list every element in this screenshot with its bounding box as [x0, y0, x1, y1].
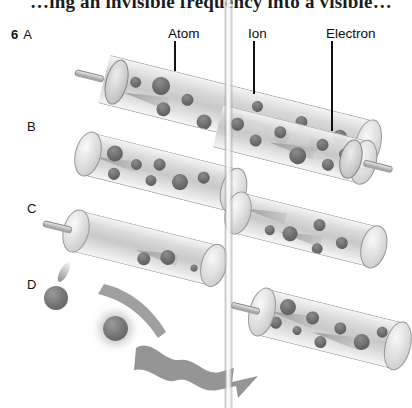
- callout-label-atom: Atom: [168, 27, 200, 41]
- row-a-particle: [155, 101, 172, 118]
- row-c-particle: [281, 225, 299, 243]
- row-d-tube-body: [256, 289, 403, 369]
- row-label-d: D: [27, 278, 36, 291]
- row-letter-c: C: [27, 201, 36, 216]
- row-b-particle: [248, 133, 263, 148]
- row-c-particle: [264, 224, 276, 236]
- figure-number: 6: [11, 27, 18, 42]
- row-d-particle: [292, 325, 303, 336]
- row-b-particle: [152, 157, 167, 172]
- row-d-tube: [256, 289, 403, 369]
- row-b-particle: [321, 157, 336, 172]
- row-label-b: B: [27, 120, 36, 133]
- callout-leader-ion: [253, 41, 255, 94]
- vertical-translucent-rod: [224, 0, 233, 408]
- row-letter-a: A: [23, 27, 32, 42]
- row-c-left-body: [71, 211, 219, 286]
- row-a-piston-rod: [74, 68, 105, 82]
- wavy-emission-arrow: [134, 336, 264, 402]
- row-c-tube-right: [233, 193, 379, 268]
- row-b-particle: [273, 125, 288, 140]
- figure-caption-clip: …ing an invisible frequency into a visib…: [0, 0, 412, 13]
- free-particle: [44, 286, 68, 310]
- curved-ribbon-arrow: [96, 280, 176, 342]
- row-a-particle: [129, 76, 142, 89]
- callout-label-ion: Ion: [248, 27, 267, 41]
- callout-leader-atom: [174, 41, 176, 71]
- row-c-right-body: [233, 193, 379, 268]
- figure-canvas: …ing an invisible frequency into a visib…: [0, 0, 412, 408]
- row-a-particle: [150, 75, 172, 97]
- row-c-particle: [190, 264, 198, 272]
- row-c-particle: [311, 242, 324, 255]
- row-a-particle: [195, 113, 213, 131]
- row-a-particle: [180, 93, 195, 108]
- row-b-particle: [170, 172, 189, 191]
- row-letter-d: D: [27, 277, 36, 292]
- row-c-particle: [312, 218, 327, 233]
- row-c-particle: [335, 236, 350, 251]
- row-b-particle: [144, 174, 157, 187]
- free-particle-tail: [55, 260, 72, 283]
- row-letter-b: B: [27, 119, 36, 134]
- row-b-particle: [196, 170, 211, 185]
- row-b-particle: [107, 167, 122, 182]
- callout-leader-electron: [331, 41, 333, 131]
- row-d-particle: [333, 321, 348, 336]
- row-label-a: 6A: [11, 28, 32, 41]
- row-b-particle: [315, 138, 330, 153]
- row-label-c: C: [27, 202, 36, 215]
- figure-caption: …ing an invisible frequency into a visib…: [30, 0, 392, 13]
- callout-label-electron: Electron: [326, 27, 376, 41]
- row-c-tube-left: [71, 211, 219, 286]
